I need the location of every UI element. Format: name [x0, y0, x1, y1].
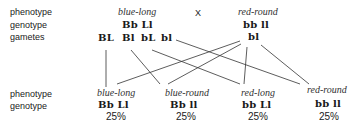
line-Bl-to-blue-round	[131, 50, 160, 84]
gamete-bL: bL	[141, 32, 155, 43]
label-genotype-offspring: genotype	[10, 101, 47, 111]
parent2-genotype: bb ll	[243, 19, 269, 30]
gamete-Bl: Bl	[122, 32, 135, 43]
offspring4-percent: 25%	[319, 111, 339, 122]
cross-symbol: X	[195, 8, 201, 18]
gamete-BL: BL	[98, 32, 114, 43]
label-phenotype-offspring: phenotype	[10, 89, 52, 99]
parent1-genotype: Bb Ll	[122, 19, 153, 30]
offspring2-percent: 25%	[176, 111, 196, 122]
line-p2-bl-to-blue-long	[117, 41, 240, 84]
offspring3-phenotype: red-long	[241, 87, 275, 98]
parent2-phenotype: red-round	[238, 6, 278, 17]
gamete-bl: bl	[161, 32, 172, 43]
offspring1-genotype: Bb Ll	[98, 99, 129, 110]
offspring4-phenotype: red-round	[307, 84, 347, 95]
offspring2-phenotype: blue-round	[165, 87, 209, 98]
label-gametes: gametes	[10, 32, 45, 42]
offspring1-phenotype: blue-long	[97, 87, 135, 98]
offspring2-genotype: Bb ll	[170, 99, 198, 110]
line-p2-bl-to-red-long	[244, 47, 247, 84]
line-p2-bl-to-red-round	[261, 45, 309, 84]
parent2-gamete-bl: bl	[248, 31, 259, 42]
offspring3-percent: 25%	[248, 111, 268, 122]
label-genotype-parents: genotype	[10, 20, 47, 30]
label-phenotype-parents: phenotype	[10, 7, 52, 17]
offspring3-genotype: bb Ll	[242, 99, 271, 110]
offspring4-genotype: bb ll	[315, 98, 341, 109]
parent1-phenotype: blue-long	[118, 6, 156, 17]
offspring1-percent: 25%	[106, 111, 126, 122]
